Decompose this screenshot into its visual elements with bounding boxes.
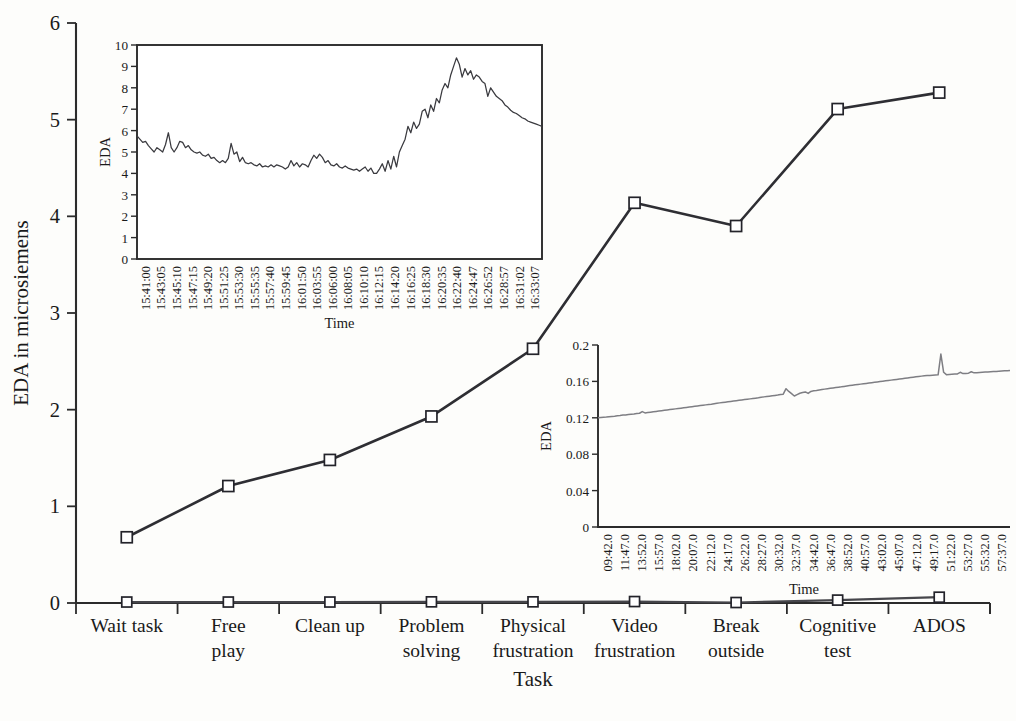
inset1-time-tick-label: 15:53:30 [232, 266, 246, 310]
main-series-marker-participant-low-eda [731, 598, 741, 608]
main-series-marker-participant-low-eda [528, 597, 538, 607]
main-series-marker-participant-low-eda [833, 595, 843, 605]
inset2-time-tick-label: 47:12.0 [910, 534, 924, 572]
main-category-label-3: Problem [398, 615, 464, 636]
main-series-marker-participant-high-eda [629, 197, 640, 208]
main-series-marker-participant-high-eda [528, 343, 539, 354]
main-series-marker-participant-low-eda [934, 592, 944, 602]
main-y-tick-label: 1 [50, 495, 60, 517]
main-category-label-2: Clean up [295, 615, 365, 636]
inset2-eda-waveform [598, 354, 1010, 418]
inset2-time-tick-label: 26:22.0 [738, 534, 752, 572]
main-series-marker-participant-low-eda [630, 597, 640, 607]
inset2-frame [598, 345, 1010, 527]
inset1-y-tick-label: 0 [121, 252, 128, 267]
main-series-marker-participant-high-eda [324, 454, 335, 465]
main-category-label-7: test [824, 640, 852, 661]
chart-canvas: 0123456EDA in microsiemensTaskWait taskF… [0, 0, 1016, 721]
main-series-marker-participant-low-eda [426, 597, 436, 607]
main-y-tick-label: 0 [50, 592, 60, 614]
main-y-tick-label: 3 [50, 302, 60, 324]
inset1-time-tick-label: 16:26:52 [481, 266, 495, 310]
inset1-time-tick-label: 16:08:05 [341, 266, 355, 310]
inset1-time-tick-label: 15:55:35 [248, 266, 262, 310]
inset2-time-tick-label: 55:32.0 [978, 534, 992, 572]
main-category-label-0: Wait task [90, 615, 163, 636]
inset2-y-axis-title: EDA [538, 421, 554, 451]
inset1-y-tick-label: 3 [121, 188, 128, 203]
inset2-time-tick-label: 40:57.0 [858, 534, 872, 572]
main-series-marker-participant-low-eda [223, 597, 233, 607]
inset2-time-tick-label: 34:42.0 [807, 534, 821, 572]
main-category-label-8: ADOS [913, 615, 966, 636]
inset1-time-tick-label: 16:10:10 [357, 266, 371, 310]
inset2-time-tick-label: 32:37.0 [789, 534, 803, 572]
inset1-time-tick-label: 15:49:20 [201, 266, 215, 310]
inset2-time-tick-label: 43:02.0 [875, 534, 889, 572]
inset1-time-tick-label: 15:47:15 [186, 266, 200, 310]
main-category-label-6: Break [713, 615, 760, 636]
inset1-time-tick-label: 16:14:20 [388, 266, 402, 310]
inset2-y-tick-label: 0.2 [573, 338, 589, 353]
main-category-label-7: Cognitive [799, 615, 876, 636]
inset1-time-tick-label: 15:59:45 [279, 266, 293, 310]
inset2-time-tick-label: 49:17.0 [927, 534, 941, 572]
main-x-axis-title: Task [513, 667, 553, 691]
main-category-label-1: Free [211, 615, 246, 636]
inset2-time-tick-label: 20:07.0 [686, 534, 700, 572]
main-category-label-6: outside [708, 640, 764, 661]
inset1-y-tick-label: 2 [121, 209, 128, 224]
inset2-time-tick-label: 28:27.0 [755, 534, 769, 572]
inset2-time-tick-label: 57:37.0 [995, 534, 1009, 572]
inset2-time-tick-label: 30:32.0 [772, 534, 786, 572]
inset2-time-tick-label: 36:47.0 [824, 534, 838, 572]
main-category-label-5: Video [611, 615, 657, 636]
inset2-time-tick-label: 18:02.0 [669, 534, 683, 572]
inset2-time-tick-label: 24:17.0 [721, 534, 735, 572]
main-y-axis-title: EDA in microsiemens [9, 220, 33, 405]
inset1-y-tick-label: 6 [121, 124, 128, 139]
inset1-time-tick-label: 16:31:02 [513, 266, 527, 310]
inset1-time-tick-label: 16:18:30 [419, 266, 433, 310]
inset1-y-tick-label: 5 [121, 145, 128, 160]
inset1-time-tick-label: 16:01:50 [295, 266, 309, 310]
inset2-time-tick-label: 11:47.0 [618, 534, 632, 571]
inset1-time-tick-label: 16:16:25 [404, 266, 418, 310]
inset1-time-tick-label: 16:12:15 [372, 266, 386, 310]
main-y-tick-label: 2 [50, 399, 60, 421]
inset2-time-tick-label: 53:27.0 [961, 534, 975, 572]
inset1-time-tick-label: 16:28:57 [497, 266, 511, 310]
main-series-marker-participant-high-eda [832, 104, 843, 115]
main-category-label-1: play [212, 640, 246, 661]
inset1-y-tick-label: 10 [115, 38, 129, 53]
main-series-marker-participant-high-eda [223, 481, 234, 492]
inset1-time-tick-label: 15:41:00 [139, 266, 153, 310]
inset1-time-tick-label: 16:22:40 [450, 266, 464, 310]
inset2-time-tick-label: 51:22.0 [944, 534, 958, 572]
inset1-y-tick-label: 4 [121, 166, 128, 181]
inset2-time-tick-label: 15:57.0 [652, 534, 666, 572]
inset1-time-tick-label: 15:57:40 [263, 266, 277, 310]
main-series-marker-participant-low-eda [122, 597, 132, 607]
inset1-y-tick-label: 8 [121, 81, 128, 96]
inset1-time-tick-label: 15:43:05 [154, 266, 168, 310]
main-series-marker-participant-low-eda [325, 597, 335, 607]
main-series-marker-participant-high-eda [731, 221, 742, 232]
inset2-time-tick-label: 09:42.0 [601, 534, 615, 572]
inset1-time-tick-label: 16:24:47 [466, 266, 480, 310]
inset2-time-tick-label: 45:07.0 [892, 534, 906, 572]
main-y-tick-label: 4 [50, 205, 60, 227]
inset2-time-tick-label: 38:52.0 [841, 534, 855, 572]
inset2-y-tick-label: 0.04 [566, 484, 589, 499]
inset2-y-tick-label: 0 [582, 520, 589, 535]
main-category-label-3: solving [403, 640, 461, 661]
inset1-x-axis-title: Time [324, 315, 354, 331]
inset1-time-tick-label: 16:03:55 [310, 266, 324, 310]
main-y-tick-label: 6 [50, 12, 60, 34]
inset2-x-axis-title: Time [789, 581, 819, 597]
inset2-y-tick-label: 0.08 [566, 447, 589, 462]
inset2-y-tick-label: 0.12 [566, 411, 589, 426]
inset1-y-tick-label: 7 [121, 102, 128, 117]
main-series-marker-participant-high-eda [934, 87, 945, 98]
inset1-time-tick-label: 15:45:10 [170, 266, 184, 310]
